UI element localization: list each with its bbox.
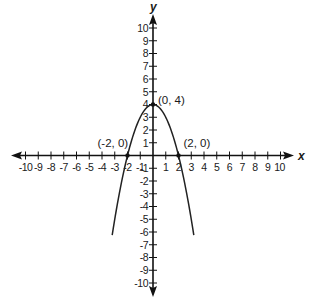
y-tick-label: -9 — [140, 264, 149, 276]
y-tick-label: 8 — [143, 47, 149, 59]
x-tick-label: 3 — [189, 161, 195, 173]
point-labels: (-2, 0)(0, 4)(2, 0) — [98, 94, 211, 158]
x-tick-label: 9 — [265, 161, 271, 173]
y-tick-label: -6 — [140, 226, 149, 238]
point-label: (-2, 0) — [98, 137, 129, 149]
x-tick-label: -3 — [111, 161, 120, 173]
x-tick-label: 8 — [252, 161, 258, 173]
parabola-graph: xy -10-9-8-7-6-5-4-3-2-112345678910-10-9… — [0, 0, 309, 303]
x-tick-label: -8 — [47, 161, 56, 173]
y-tick-label: 7 — [143, 60, 149, 72]
y-tick-label: 5 — [143, 86, 149, 98]
y-tick-label: -7 — [140, 239, 149, 251]
y-tick-label: -5 — [140, 213, 149, 225]
x-tick-label: -10 — [19, 161, 33, 173]
point-marker — [125, 153, 129, 157]
x-tick-label: -4 — [98, 161, 107, 173]
x-tick-label: 5 — [214, 161, 220, 173]
x-axis-label: x — [297, 149, 306, 163]
y-tick-label: -4 — [140, 200, 149, 212]
y-tick-label: 10 — [137, 22, 148, 34]
x-tick-label: -6 — [72, 161, 81, 173]
point-label: (0, 4) — [158, 94, 185, 106]
x-tick-label: 6 — [227, 161, 233, 173]
x-tick-label: -9 — [34, 161, 43, 173]
x-tick-label: 10 — [274, 161, 285, 173]
x-tick-label: 4 — [201, 161, 207, 173]
y-tick-label: 2 — [143, 124, 149, 136]
y-tick-label: -2 — [140, 175, 149, 187]
y-tick-label: -1 — [140, 162, 149, 174]
y-tick-label: 6 — [143, 73, 149, 85]
point-marker — [176, 153, 180, 157]
x-tick-label: 1 — [163, 161, 169, 173]
x-tick-label: 7 — [240, 161, 246, 173]
point-label: (2, 0) — [184, 137, 211, 149]
axes: xy — [11, 0, 306, 297]
x-tick-label: -7 — [60, 161, 69, 173]
y-tick-label: 9 — [143, 35, 149, 47]
y-tick-label: 1 — [143, 137, 149, 149]
point-marker — [151, 102, 155, 106]
y-tick-label: -10 — [134, 277, 148, 289]
y-tick-label: -8 — [140, 251, 149, 263]
y-tick-label: -3 — [140, 188, 149, 200]
x-tick-label: -5 — [85, 161, 94, 173]
y-axis-label: y — [149, 0, 158, 14]
